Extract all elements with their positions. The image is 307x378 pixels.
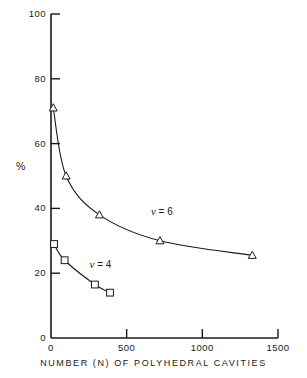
- series-1: [49, 104, 256, 259]
- y-tick-label: 80: [10, 73, 46, 84]
- y-tick-label: 20: [10, 267, 46, 278]
- x-tick-label: 1500: [258, 342, 298, 353]
- x-tick-label: 500: [107, 342, 147, 353]
- plot-area: [0, 0, 307, 378]
- data-point-marker: [107, 289, 114, 296]
- x-tick-label: 0: [31, 342, 71, 353]
- axis-ticks: [51, 14, 278, 338]
- axes: [51, 14, 278, 338]
- chart-figure: 020406080100050010001500 % NUMBER (N) OF…: [0, 0, 307, 378]
- y-axis-title: %: [16, 160, 25, 172]
- series-annotation: ν = 6: [151, 205, 173, 217]
- y-tick-label: 100: [10, 8, 46, 19]
- series-annotation-value: = 6: [159, 206, 173, 217]
- data-point-marker: [95, 211, 103, 218]
- nu-symbol: ν: [151, 205, 156, 217]
- data-point-marker: [91, 281, 98, 288]
- series-annotation: ν = 4: [90, 258, 112, 270]
- data-point-marker: [51, 241, 58, 248]
- series-line: [53, 108, 252, 255]
- x-tick-label: 1000: [182, 342, 222, 353]
- y-tick-label: 40: [10, 202, 46, 213]
- data-point-marker: [61, 257, 68, 264]
- series-annotation-value: = 4: [97, 259, 111, 270]
- data-series: [49, 104, 256, 296]
- data-point-marker: [62, 172, 70, 179]
- x-axis-title: NUMBER (N) OF POLYHEDRAL CAVITIES: [0, 358, 307, 368]
- y-tick-label: 60: [10, 138, 46, 149]
- nu-symbol: ν: [90, 258, 95, 270]
